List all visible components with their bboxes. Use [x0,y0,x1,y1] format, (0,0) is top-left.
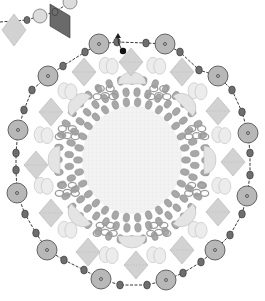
half-dome-bead [204,146,216,174]
rondelle-bead [123,223,130,232]
rondelle-bead [82,203,93,214]
small-seed-bead [144,281,151,289]
fragment-large-bead [33,9,47,23]
ring-bead [58,126,66,132]
rondelle-bead [82,107,93,118]
rondelle-bead [188,173,198,181]
ring-bead [201,190,209,196]
fragment-small-bead [52,8,58,15]
ring-bead [185,134,193,140]
small-seed-bead [239,108,246,116]
small-seed-bead [239,210,246,218]
large-round-bead [38,66,58,86]
rondelle-bead [163,210,173,221]
rondelle-bead [133,88,140,97]
small-seed-bead [247,149,254,157]
half-dome-bead [48,146,60,174]
rondelle-bead [134,98,141,107]
small-seed-bead [177,48,184,56]
large-round-bead [37,240,57,260]
rondelle-bead [134,213,141,222]
rondelle-bead [94,83,104,94]
rondelle-bead [122,88,129,97]
small-seed-bead [81,266,88,274]
small-seed-bead [198,258,205,266]
rondelle-bead [154,216,164,227]
rondelle-bead [74,168,84,176]
rondelle-bead [74,144,84,152]
fragment-small-bead [24,16,30,23]
fragment-diamond-bead [2,14,26,46]
rondelle-bead [65,163,74,170]
large-round-bead [91,269,111,289]
rondelle-bead [144,220,153,230]
small-seed-bead [247,171,254,179]
large-round-bead [208,66,228,86]
large-round-bead [156,270,176,290]
small-seed-bead [22,210,29,218]
beading-pattern-diagram: Beaded medallion pattern [0,0,265,301]
center-grid [82,106,182,214]
rondelle-bead [134,223,141,232]
light-oval-bead [154,58,166,74]
small-seed-bead [29,86,36,94]
large-round-bead [237,186,257,206]
rondelle-bead [123,98,130,107]
rondelle-bead [65,151,74,158]
large-round-bead [7,183,27,203]
rondelle-bead [171,202,182,213]
large-round-bead [89,34,109,54]
rondelle-bead [180,144,190,152]
small-seed-bead [13,166,20,174]
light-oval-bead [41,128,53,144]
large-round-bead [8,120,28,140]
small-seed-bead [61,256,68,264]
rondelle-bead [161,83,171,94]
rondelle-bead [190,162,199,169]
small-seed-bead [227,231,234,239]
start-arrow-icon [115,33,121,38]
fragment-large-bead [63,0,77,9]
small-seed-bead [33,229,40,237]
light-oval-bead [219,128,231,144]
rondelle-bead [90,99,100,110]
light-oval-bead [65,84,77,100]
rondelle-bead [91,211,101,222]
small-seed-bead [13,149,20,157]
small-seed-bead [21,106,28,114]
ring-bead [198,126,206,132]
rondelle-bead [66,174,76,183]
light-oval-bead [106,248,118,264]
small-seed-bead [196,66,203,74]
light-oval-bead [195,84,207,100]
rondelle-bead [171,106,182,117]
pattern-canvas [0,0,265,301]
ring-bead [163,94,171,100]
small-seed-bead [117,281,124,289]
light-oval-bead [106,58,118,74]
rondelle-bead [180,168,190,176]
ring-bead [93,94,101,100]
rondelle-bead [182,157,191,163]
light-oval-bead [219,178,231,194]
small-seed-bead [82,48,89,56]
light-oval-bead [65,222,77,238]
rondelle-bead [112,221,120,231]
light-oval-bead [154,248,166,264]
rondelle-bead [123,213,130,222]
large-round-bead [238,123,258,143]
ring-bead [55,190,63,196]
half-dome-bead [118,236,146,248]
rondelle-bead [192,192,203,202]
small-seed-bead [143,39,150,47]
light-oval-bead [41,178,53,194]
small-seed-bead [229,86,236,94]
rondelle-bead [74,157,83,163]
small-seed-bead [180,269,187,277]
small-seed-bead [60,62,67,70]
large-round-bead [205,240,225,260]
light-oval-bead [195,222,207,238]
large-round-bead [155,34,175,54]
rondelle-bead [190,150,199,157]
